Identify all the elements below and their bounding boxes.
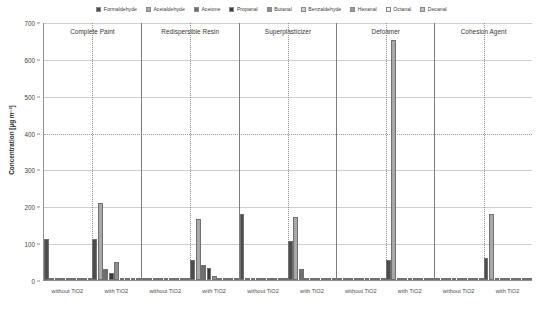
- bar[interactable]: [44, 239, 49, 280]
- bar[interactable]: [408, 278, 413, 280]
- x-label-panel: without TiO2with TiO2: [43, 283, 141, 303]
- bar[interactable]: [71, 278, 76, 280]
- bar[interactable]: [217, 278, 222, 280]
- bar[interactable]: [164, 278, 169, 280]
- legend-item[interactable]: Hexanal: [350, 6, 377, 12]
- bar[interactable]: [424, 278, 429, 280]
- bar[interactable]: [131, 278, 136, 280]
- bar[interactable]: [511, 278, 516, 280]
- bar[interactable]: [77, 278, 82, 280]
- bar[interactable]: [321, 278, 326, 280]
- bar[interactable]: [92, 239, 97, 280]
- bar[interactable]: [153, 278, 158, 280]
- y-tick-label: 0: [31, 278, 35, 285]
- bar[interactable]: [418, 278, 423, 280]
- bar[interactable]: [174, 278, 179, 280]
- bar[interactable]: [359, 278, 364, 280]
- bar[interactable]: [370, 278, 375, 280]
- bar[interactable]: [142, 278, 147, 280]
- bar[interactable]: [147, 278, 152, 280]
- bar[interactable]: [365, 278, 370, 280]
- bar[interactable]: [375, 278, 380, 280]
- bar[interactable]: [60, 278, 65, 280]
- bar[interactable]: [212, 276, 217, 280]
- bar[interactable]: [299, 269, 304, 280]
- bar[interactable]: [484, 258, 489, 280]
- bar[interactable]: [402, 278, 407, 280]
- bar[interactable]: [527, 278, 532, 280]
- bar[interactable]: [98, 203, 103, 280]
- bars: [435, 23, 483, 280]
- bar[interactable]: [337, 278, 342, 280]
- bar[interactable]: [413, 278, 418, 280]
- bar[interactable]: [441, 278, 446, 280]
- bar[interactable]: [49, 278, 54, 280]
- bar[interactable]: [223, 278, 228, 280]
- bar[interactable]: [468, 278, 473, 280]
- y-tick-label: 300: [24, 167, 35, 174]
- bar[interactable]: [435, 278, 440, 280]
- bar[interactable]: [457, 278, 462, 280]
- bar[interactable]: [103, 269, 108, 280]
- bar[interactable]: [505, 278, 510, 280]
- bar[interactable]: [326, 278, 331, 280]
- legend-item[interactable]: Decanal: [420, 6, 447, 12]
- legend-item-label: Acetaldehyde: [153, 6, 184, 12]
- legend-item[interactable]: Acetone: [194, 6, 221, 12]
- bar[interactable]: [278, 278, 283, 280]
- bar[interactable]: [391, 40, 396, 280]
- bar[interactable]: [272, 278, 277, 280]
- bar[interactable]: [462, 278, 467, 280]
- bar[interactable]: [288, 241, 293, 280]
- legend-item[interactable]: Butanal: [267, 6, 292, 12]
- legend-item[interactable]: Propanal: [229, 6, 257, 12]
- bar[interactable]: [240, 214, 245, 280]
- bar[interactable]: [386, 260, 391, 280]
- bar[interactable]: [473, 278, 478, 280]
- bar[interactable]: [201, 265, 206, 280]
- bar[interactable]: [114, 262, 119, 280]
- legend-item[interactable]: Octanal: [386, 6, 411, 12]
- bar[interactable]: [109, 273, 114, 280]
- group-container: [337, 23, 434, 280]
- bar[interactable]: [196, 219, 201, 280]
- bar[interactable]: [495, 278, 500, 280]
- bar[interactable]: [354, 278, 359, 280]
- legend-swatch-icon: [386, 7, 391, 12]
- bar[interactable]: [261, 278, 266, 280]
- bar[interactable]: [293, 217, 298, 280]
- bar[interactable]: [190, 260, 195, 280]
- bar[interactable]: [310, 278, 315, 280]
- bar[interactable]: [348, 278, 353, 280]
- bar[interactable]: [251, 278, 256, 280]
- bar[interactable]: [180, 278, 185, 280]
- bar[interactable]: [120, 278, 125, 280]
- bar[interactable]: [343, 278, 348, 280]
- bar[interactable]: [397, 278, 402, 280]
- x-label-panel: without TiO2with TiO2: [336, 283, 434, 303]
- bar[interactable]: [169, 278, 174, 280]
- bar[interactable]: [66, 278, 71, 280]
- bar[interactable]: [446, 278, 451, 280]
- legend-item[interactable]: Acetaldehyde: [146, 6, 185, 12]
- bar[interactable]: [267, 278, 272, 280]
- bar[interactable]: [158, 278, 163, 280]
- bar[interactable]: [55, 278, 60, 280]
- legend-item[interactable]: Formaldehyde: [96, 6, 137, 12]
- bar[interactable]: [228, 278, 233, 280]
- bar[interactable]: [256, 278, 261, 280]
- bar[interactable]: [522, 278, 527, 280]
- bar[interactable]: [489, 214, 494, 280]
- bar[interactable]: [516, 278, 521, 280]
- bar[interactable]: [82, 278, 87, 280]
- legend-item[interactable]: Benzaldehyde: [301, 6, 341, 12]
- bar[interactable]: [125, 278, 130, 280]
- bar[interactable]: [315, 278, 320, 280]
- bar[interactable]: [500, 278, 505, 280]
- bar[interactable]: [304, 278, 309, 280]
- bar-group: [142, 23, 190, 280]
- bar[interactable]: [452, 278, 457, 280]
- panel-container: Complete PaintRedispersible ResinSuperpl…: [44, 23, 532, 280]
- bar[interactable]: [207, 268, 212, 280]
- bar[interactable]: [245, 278, 250, 280]
